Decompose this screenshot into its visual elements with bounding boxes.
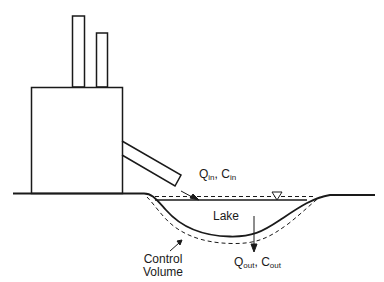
factory-building <box>32 88 123 194</box>
diagram-drawing <box>0 0 384 282</box>
discharge-pipe <box>122 141 181 186</box>
lake-mass-balance-diagram: Qin, Cin Lake Control Volume Qout, Cout <box>0 0 384 282</box>
smokestack-short <box>97 33 108 87</box>
smokestack-tall <box>73 16 85 87</box>
outflow-arrowhead-icon <box>251 244 257 252</box>
lake-label: Lake <box>213 210 239 223</box>
water-level-symbol <box>272 192 282 200</box>
control-volume-pointer <box>170 243 179 251</box>
outflow-label: Qout, Cout <box>234 256 281 272</box>
control-volume-label: Control Volume <box>143 253 183 279</box>
inflow-label: Qin, Cin <box>199 168 236 184</box>
